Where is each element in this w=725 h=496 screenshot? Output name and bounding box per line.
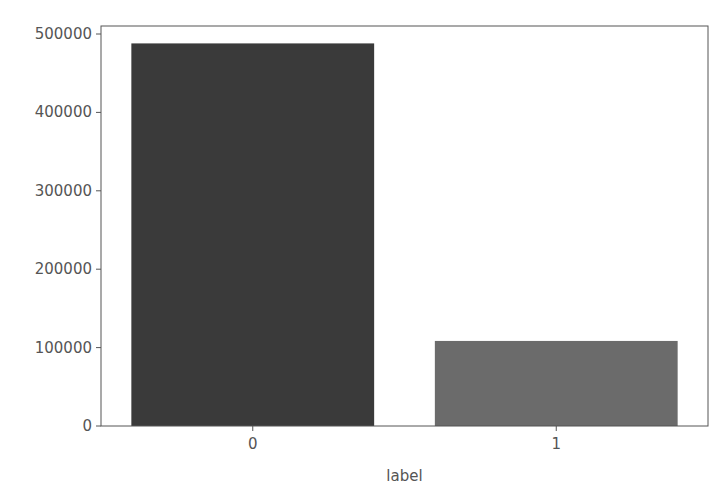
y-tick-label: 100000 [35, 339, 92, 357]
y-tick-label: 400000 [35, 103, 92, 121]
y-tick-label: 200000 [35, 260, 92, 278]
x-tick-label: 1 [551, 435, 561, 453]
bar-chart: 010100000200000300000400000500000label [0, 0, 725, 496]
y-tick-label: 500000 [35, 25, 92, 43]
plot-area: 010100000200000300000400000500000label [35, 25, 708, 485]
bar-1 [435, 341, 678, 426]
x-axis-label: label [386, 467, 422, 485]
y-tick-label: 0 [82, 417, 92, 435]
y-tick-label: 300000 [35, 182, 92, 200]
x-tick-label: 0 [248, 435, 258, 453]
bar-0 [131, 43, 374, 426]
